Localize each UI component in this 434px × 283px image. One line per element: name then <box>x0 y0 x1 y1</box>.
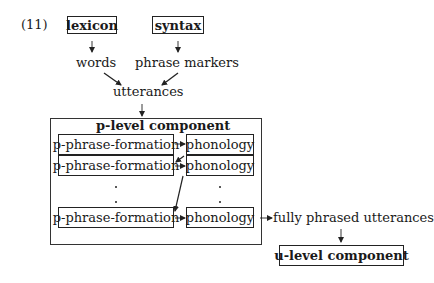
p-phrase-formation-box-2: p-phrase-formation <box>58 155 174 176</box>
example-number: (11) <box>21 17 48 33</box>
p-phrase-formation-box-1: p-phrase-formation <box>58 134 174 155</box>
fully-phrased-utterances-label: fully phrased utterances <box>273 210 434 226</box>
p-level-title: p-level component <box>96 118 230 134</box>
ellipsis-dot <box>115 186 117 188</box>
syntax-box: syntax <box>152 16 204 34</box>
phonology-box-3: phonology <box>186 207 254 228</box>
lexicon-label: lexicon <box>66 18 118 33</box>
phonology-box-1: phonology <box>186 134 254 155</box>
utterances-label: utterances <box>113 84 184 100</box>
syntax-label: syntax <box>155 18 202 33</box>
phonology-label: phonology <box>186 158 254 173</box>
u-level-component-box: u-level component <box>279 245 404 266</box>
phonology-box-2: phonology <box>186 155 254 176</box>
ellipsis-dot <box>219 186 221 188</box>
p-phrase-formation-label: p-phrase-formation <box>53 137 180 152</box>
ellipsis-dot <box>115 201 117 203</box>
words-label: words <box>76 55 116 71</box>
phonology-label: phonology <box>186 210 254 225</box>
lexicon-box: lexicon <box>67 16 117 34</box>
phonology-label: phonology <box>186 137 254 152</box>
phrase-markers-label: phrase markers <box>135 55 239 71</box>
p-phrase-formation-box-3: p-phrase-formation <box>58 207 174 228</box>
ellipsis-dot <box>219 201 221 203</box>
p-phrase-formation-label: p-phrase-formation <box>53 210 180 225</box>
p-phrase-formation-label: p-phrase-formation <box>53 158 180 173</box>
u-level-label: u-level component <box>274 248 409 263</box>
